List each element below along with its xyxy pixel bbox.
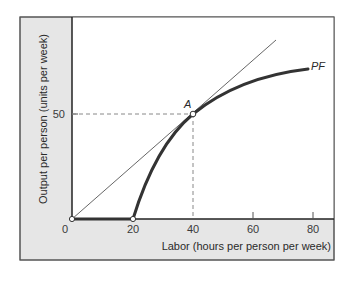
x-tick-label-0: 0 (62, 223, 68, 235)
point-a-marker (190, 111, 196, 117)
y-axis-title: Output per person (units per week) (37, 34, 49, 204)
x-tick-label-60: 60 (247, 223, 259, 235)
x-tick-label-20: 20 (127, 223, 139, 235)
y-tick-label-50: 50 (53, 108, 65, 120)
x-tick-label-80: 80 (307, 223, 319, 235)
point-a-label: A (183, 98, 191, 110)
production-function-chart: A PF 50 0 20 40 60 80 Labor (hours per p… (0, 0, 351, 281)
pf-start-marker (130, 216, 135, 221)
plot-area (72, 17, 334, 219)
x-tick-label-40: 40 (187, 223, 199, 235)
x-axis-title: Labor (hours per person per week) (162, 240, 331, 252)
origin-marker (69, 216, 74, 221)
pf-label: PF (311, 60, 326, 72)
